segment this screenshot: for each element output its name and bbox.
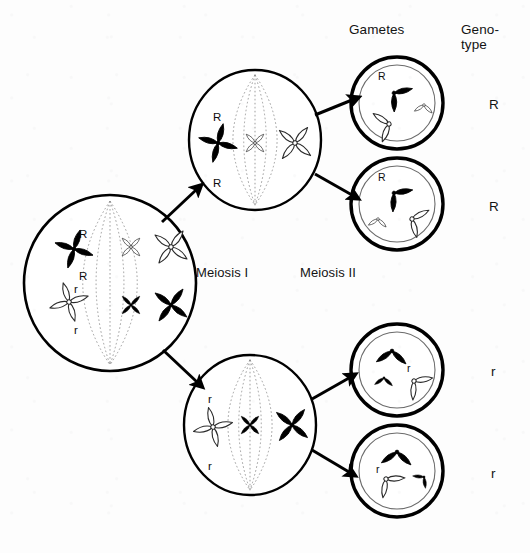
daughter-cell-top-allele-label-2: R	[213, 177, 221, 189]
gamete-cell-2-allele-label: R	[378, 171, 386, 183]
header-genotype-line1: Geno-	[461, 22, 499, 37]
parent-cell-allele-label-2: R	[79, 270, 87, 282]
daughter-cell-top	[189, 70, 321, 210]
gamete-cell-2-membrane	[351, 158, 443, 250]
gamete-cell-4-membrane	[351, 425, 443, 517]
arrow-bottom-daughter-to-gamete-3	[312, 378, 349, 399]
chromatid-black-large-centromere	[395, 450, 399, 454]
gamete-cell-4-genotype-label: r	[491, 466, 496, 481]
gamete-cell-3-genotype-label: r	[491, 364, 496, 379]
chromosome-black-small-centromere	[249, 424, 251, 426]
arrow-top-daughter-to-gamete-2	[315, 174, 352, 195]
arrow-bottom-daughter-to-gamete-4	[312, 450, 349, 472]
parent-cell-allele-label-4: r	[74, 324, 78, 336]
gamete-cell-1	[351, 57, 443, 149]
chromosome-white-small-centromere	[130, 246, 133, 249]
gamete-cell-3	[351, 324, 443, 416]
parent-cell-allele-label-1: R	[79, 228, 87, 240]
chromosome-white-large-centromere	[169, 245, 174, 250]
chromatid-black-large-centromere	[390, 349, 394, 353]
chromosome-black-small-centromere	[130, 304, 132, 306]
chromosome-white-large-centromere	[293, 141, 298, 146]
gamete-cell-1-allele-label: R	[378, 70, 386, 82]
stage-label-meiosis-1: Meiosis I	[196, 265, 248, 280]
daughter-cell-top-allele-label-1: R	[213, 111, 221, 123]
daughter-cell-bottom	[184, 355, 316, 495]
header-genotype-line2: type	[461, 37, 487, 52]
meiosis-diagram: Gametes Geno- type Meiosis I Meiosis II …	[0, 0, 530, 553]
header-gametes: Gametes	[349, 22, 404, 37]
gamete-cell-2	[351, 158, 443, 250]
gamete-cell-1-genotype-label: R	[489, 97, 499, 112]
parent-cell-allele-label-3: r	[74, 283, 78, 295]
arrow-parent-to-top-daughter	[162, 190, 196, 222]
gamete-cell-4	[351, 425, 443, 517]
daughter-cell-bottom-allele-label-2: r	[208, 460, 212, 472]
parent-cell	[24, 195, 196, 371]
chromosome-black-large-centromere	[290, 423, 294, 427]
chromatid-white-small-centromere	[377, 218, 380, 221]
gamete-cell-4-allele-label: r	[376, 463, 380, 475]
arrow-top-daughter-to-gamete-1	[315, 100, 352, 115]
arrow-parent-to-bottom-daughter	[163, 350, 197, 382]
daughter-cell-bottom-allele-label-1: r	[208, 393, 212, 405]
chromosome-white-small-centromere	[254, 142, 257, 145]
gamete-cell-3-membrane	[351, 324, 443, 416]
stage-label-meiosis-2: Meiosis II	[300, 265, 356, 280]
chromatid-black-small-centromere	[383, 377, 385, 379]
gamete-cell-2-genotype-label: R	[489, 199, 499, 214]
gamete-cell-3-allele-label: r	[407, 362, 411, 374]
chromatid-white-small-centromere	[423, 104, 426, 107]
chromosome-black-large-centromere	[169, 303, 174, 308]
